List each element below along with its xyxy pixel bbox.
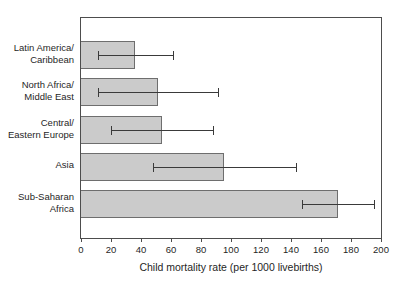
x-tick-label-180: 180 <box>336 244 366 255</box>
x-tick-label-200: 200 <box>366 244 396 255</box>
bar-5 <box>81 190 338 218</box>
x-axis-title: Child mortality rate (per 1000 livebirth… <box>80 261 382 273</box>
category-label-3: Central/ Eastern Europe <box>0 117 74 140</box>
x-tick-label-60: 60 <box>156 244 186 255</box>
error-cap-2-high <box>218 88 219 97</box>
x-tick-40 <box>141 238 142 242</box>
x-tick-140 <box>291 238 292 242</box>
x-tick-60 <box>171 238 172 242</box>
error-cap-3-high <box>213 126 214 135</box>
x-tick-120 <box>261 238 262 242</box>
category-label-4: Asia <box>0 159 74 171</box>
category-label-5: Sub-Saharan Africa <box>0 191 74 214</box>
x-tick-label-0: 0 <box>66 244 96 255</box>
error-cap-4-low <box>153 163 154 172</box>
x-tick-label-100: 100 <box>216 244 246 255</box>
chart-figure: Latin America/ CaribbeanNorth Africa/ Mi… <box>0 0 403 289</box>
x-tick-100 <box>231 238 232 242</box>
error-bar-4 <box>153 167 296 168</box>
category-label-1: Latin America/ Caribbean <box>0 42 74 65</box>
error-cap-3-low <box>111 126 112 135</box>
x-tick-label-140: 140 <box>276 244 306 255</box>
error-bar-3 <box>111 130 213 131</box>
error-bar-5 <box>302 204 374 205</box>
x-tick-200 <box>381 238 382 242</box>
x-tick-0 <box>81 238 82 242</box>
plot-area <box>80 17 382 239</box>
error-cap-5-high <box>374 200 375 209</box>
x-axis: 020406080100120140160180200 <box>80 238 382 260</box>
x-tick-label-160: 160 <box>306 244 336 255</box>
x-tick-label-120: 120 <box>246 244 276 255</box>
x-tick-label-40: 40 <box>126 244 156 255</box>
error-bar-1 <box>98 55 173 56</box>
x-tick-label-20: 20 <box>96 244 126 255</box>
x-tick-80 <box>201 238 202 242</box>
x-tick-20 <box>111 238 112 242</box>
x-tick-label-80: 80 <box>186 244 216 255</box>
error-cap-1-high <box>173 51 174 60</box>
error-cap-5-low <box>302 200 303 209</box>
error-cap-4-high <box>296 163 297 172</box>
error-bar-2 <box>98 92 218 93</box>
x-tick-180 <box>351 238 352 242</box>
x-tick-160 <box>321 238 322 242</box>
error-cap-2-low <box>98 88 99 97</box>
error-cap-1-low <box>98 51 99 60</box>
category-label-2: North Africa/ Middle East <box>0 79 74 102</box>
